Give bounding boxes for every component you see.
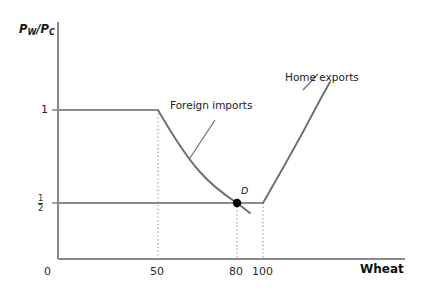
y-axis-title-sub2: C xyxy=(49,28,55,37)
foreign-imports-label: Foreign imports xyxy=(170,100,252,111)
y-axis-title-sub1: W xyxy=(27,28,36,37)
y-tick-label-half: 1 2 xyxy=(38,194,43,214)
x-tick-label-100: 100 xyxy=(252,266,273,277)
equilibrium-point-marker xyxy=(233,199,241,207)
home-exports-label: Home exports xyxy=(285,72,359,83)
foreign-imports-curve xyxy=(158,110,250,213)
trade-equilibrium-figure: PW/PC 1 1 2 0 50 80 100 Wheat Foreign im… xyxy=(0,0,424,291)
y-tick-half-numerator: 1 xyxy=(38,194,43,203)
x-axis-title: Wheat xyxy=(360,263,404,275)
origin-label: 0 xyxy=(44,266,51,277)
foreign-imports-leader xyxy=(190,120,215,158)
x-tick-label-80: 80 xyxy=(229,266,243,277)
home-exports-rising-branch xyxy=(263,82,330,203)
y-tick-label-1: 1 xyxy=(41,104,48,115)
figure-canvas xyxy=(0,0,424,291)
y-tick-half-denominator: 2 xyxy=(38,203,43,213)
equilibrium-point-label: D xyxy=(241,186,248,196)
x-tick-label-50: 50 xyxy=(150,266,164,277)
y-axis-title: PW/PC xyxy=(19,24,55,37)
y-axis-title-p2: P xyxy=(40,22,48,36)
